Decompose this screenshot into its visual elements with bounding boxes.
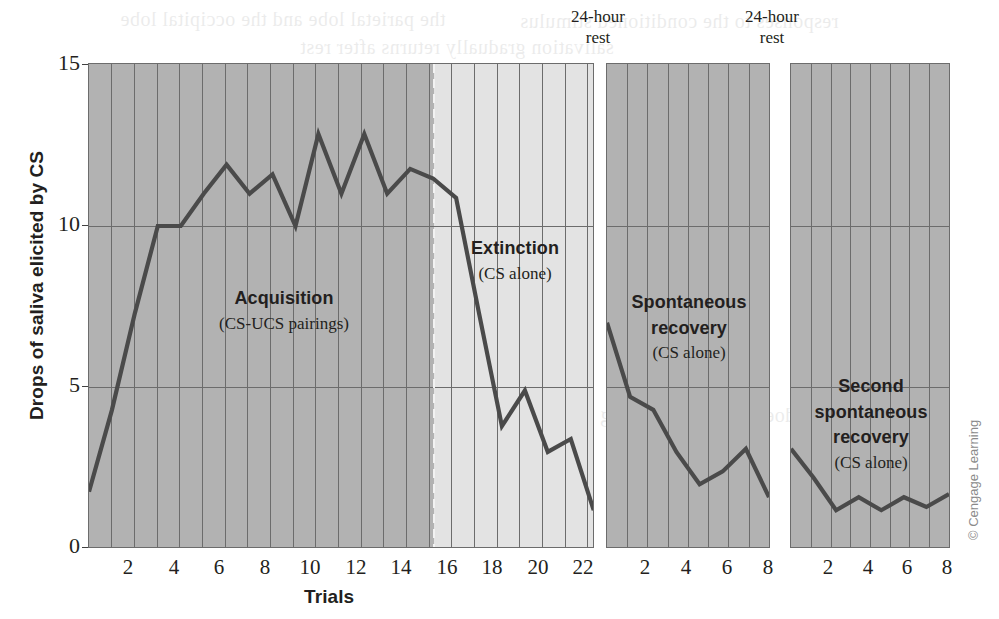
x-tick-label: 18 [477, 555, 507, 580]
x-tick-label: 2 [630, 555, 660, 580]
spontaneous-recovery-title-line2: recovery [606, 316, 770, 342]
annotation-spontaneous-recovery: Spontaneous recovery (CS alone) [606, 290, 770, 365]
annotation-acquisition: Acquisition (CS-UCS pairings) [199, 286, 369, 336]
x-tick-label: 12 [341, 555, 371, 580]
x-tick-label: 2 [113, 555, 143, 580]
panel-acquisition-extinction: Acquisition (CS-UCS pairings) Extinction… [88, 63, 594, 548]
rest-label-line2: rest [586, 28, 611, 47]
rest-label-1: 24-hour rest [528, 6, 668, 49]
x-tick-label: 6 [712, 555, 742, 580]
annotation-extinction: Extinction (CS alone) [445, 236, 585, 286]
x-tick-label: 10 [295, 555, 325, 580]
x-tick-label: 22 [568, 555, 598, 580]
classical-conditioning-chart: Drops of saliva elicited by CS 0 5 10 15 [0, 0, 999, 619]
y-tick-label-5: 5 [46, 372, 80, 398]
panel-spontaneous-recovery: Spontaneous recovery (CS alone) [606, 63, 770, 548]
panel-second-spontaneous-recovery: Second spontaneous recovery (CS alone) [790, 63, 950, 548]
x-tick-label: 8 [250, 555, 280, 580]
x-tick-label: 6 [204, 555, 234, 580]
rest-label-2: 24-hour rest [702, 6, 842, 49]
series-second-spontaneous-recovery [791, 64, 950, 548]
y-tick-label-0: 0 [46, 533, 80, 559]
copyright-credit: © Cengage Learning [966, 420, 981, 540]
extinction-title: Extinction [445, 236, 585, 262]
rest-label-line1: 24-hour [571, 7, 625, 26]
rest-label-line2: rest [760, 28, 785, 47]
x-axis-label: Trials [304, 586, 354, 608]
extinction-subtitle: (CS alone) [445, 262, 585, 286]
spontaneous-recovery-title-line1: Spontaneous [606, 290, 770, 316]
second-recovery-title-line2: spontaneous [790, 400, 950, 426]
second-recovery-title-line3: recovery [790, 425, 950, 451]
rest-label-line1: 24-hour [745, 7, 799, 26]
x-tick-label: 4 [159, 555, 189, 580]
second-recovery-title-line1: Second [790, 374, 950, 400]
x-tick-label: 8 [932, 555, 962, 580]
y-tick-label-10: 10 [46, 211, 80, 237]
x-tick-label: 20 [523, 555, 553, 580]
spontaneous-recovery-subtitle: (CS alone) [606, 341, 770, 365]
x-tick-label: 4 [853, 555, 883, 580]
acquisition-title: Acquisition [199, 286, 369, 312]
x-tick-label: 16 [432, 555, 462, 580]
x-tick-label: 4 [671, 555, 701, 580]
x-tick-label: 6 [892, 555, 922, 580]
acquisition-subtitle: (CS-UCS pairings) [199, 312, 369, 336]
annotation-second-spontaneous-recovery: Second spontaneous recovery (CS alone) [790, 374, 950, 475]
x-tick-label: 8 [753, 555, 783, 580]
x-tick-label: 2 [813, 555, 843, 580]
x-tick-label: 14 [386, 555, 416, 580]
y-tick-label-15: 15 [46, 50, 80, 76]
y-axis-label: Drops of saliva elicited by CS [26, 151, 48, 420]
second-recovery-subtitle: (CS alone) [790, 451, 950, 475]
